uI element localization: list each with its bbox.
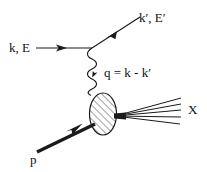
photon-propagator-group: q = k - k′ (88, 48, 152, 96)
feynman-diagram-figure: k, E k′, E′ q = k - k′ p (0, 0, 207, 172)
proton-line (37, 124, 95, 152)
hadron-blob-ellipse (90, 93, 117, 135)
final-state-fan-group: X (114, 98, 198, 124)
incoming-lepton-label: k, E (9, 40, 30, 55)
hadron-blob-group (90, 93, 117, 135)
photon-arrowhead (92, 71, 97, 78)
outgoing-lepton-label: k′, E′ (139, 10, 166, 25)
final-state-label: X (188, 102, 198, 117)
photon-momentum-label: q = k - k′ (104, 65, 151, 80)
final-state-fan-base (114, 113, 126, 120)
dis-diagram-canvas: k, E k′, E′ q = k - k′ p (0, 0, 207, 172)
outgoing-lepton-group: k′, E′ (92, 10, 166, 48)
photon-wavy-line (88, 48, 97, 96)
proton-group: p (30, 124, 95, 168)
incoming-lepton-group: k, E (9, 40, 92, 55)
proton-label: p (30, 152, 37, 167)
